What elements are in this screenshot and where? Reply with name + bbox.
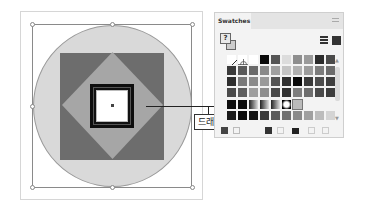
- folder-icon[interactable]: [292, 128, 299, 134]
- swatch-registration[interactable]: [237, 54, 248, 65]
- swatch-color[interactable]: [292, 110, 303, 121]
- swatch-color[interactable]: [270, 76, 281, 87]
- swatch-color[interactable]: [303, 76, 314, 87]
- swatch-color[interactable]: [226, 99, 237, 110]
- swatch-color[interactable]: [314, 76, 325, 87]
- swatch-radial-gradient[interactable]: [281, 99, 292, 110]
- swatch-color[interactable]: [259, 87, 270, 98]
- swatch-color[interactable]: [226, 110, 237, 121]
- swatch-color[interactable]: [226, 87, 237, 98]
- grid-view-icon[interactable]: [332, 36, 341, 45]
- swatch-pattern[interactable]: [292, 99, 303, 110]
- swatch-color[interactable]: [314, 110, 325, 121]
- swatch-color[interactable]: [281, 54, 292, 65]
- swatch-color[interactable]: [259, 65, 270, 76]
- swatch-options-icon[interactable]: [265, 127, 272, 134]
- swatch-color[interactable]: [303, 110, 314, 121]
- swatch-color[interactable]: [292, 87, 303, 98]
- swatch-gradient[interactable]: [259, 99, 270, 110]
- swatch-color[interactable]: [270, 87, 281, 98]
- swatch-color[interactable]: [314, 54, 325, 65]
- swatch-color[interactable]: [259, 76, 270, 87]
- delete-icon[interactable]: [322, 127, 329, 134]
- swatch-color[interactable]: [270, 54, 281, 65]
- swatch-color[interactable]: [314, 65, 325, 76]
- show-kinds-icon[interactable]: [233, 127, 240, 134]
- handle-top-center[interactable]: [110, 22, 115, 27]
- swatch-color[interactable]: [292, 54, 303, 65]
- swatch-color[interactable]: [248, 54, 259, 65]
- handle-middle-left[interactable]: [30, 104, 35, 109]
- handle-top-left[interactable]: [30, 22, 35, 27]
- swatch-gradient[interactable]: [248, 99, 259, 110]
- scroll-up-icon[interactable]: ▲: [335, 57, 339, 63]
- swatch-color[interactable]: [292, 65, 303, 76]
- swatch-color[interactable]: [292, 76, 303, 87]
- swatch-color[interactable]: [281, 110, 292, 121]
- swatch-color[interactable]: [226, 76, 237, 87]
- swatch-color[interactable]: [248, 76, 259, 87]
- new-swatch-icon[interactable]: [308, 127, 315, 134]
- panel-menu-icon[interactable]: [332, 18, 339, 24]
- swatch-color[interactable]: [303, 65, 314, 76]
- swatch-color[interactable]: [248, 65, 259, 76]
- swatch-color[interactable]: [314, 87, 325, 98]
- swatch-color[interactable]: [248, 110, 259, 121]
- swatches-panel: Swatches ? ▲ ▼: [214, 12, 344, 138]
- scrollbar-thumb[interactable]: [335, 67, 340, 101]
- swatch-color[interactable]: [270, 65, 281, 76]
- fill-stroke-indicator[interactable]: ?: [220, 33, 238, 51]
- list-view-icon[interactable]: [320, 36, 328, 44]
- swatch-libraries-icon[interactable]: [221, 127, 228, 134]
- swatch-color[interactable]: [303, 54, 314, 65]
- tab-swatches[interactable]: Swatches: [215, 13, 251, 29]
- swatch-color[interactable]: [237, 99, 248, 110]
- swatch-color[interactable]: [303, 87, 314, 98]
- swatch-none[interactable]: [226, 54, 237, 65]
- drag-label-connector: [208, 106, 209, 114]
- handle-bottom-left[interactable]: [30, 185, 35, 190]
- swatch-color[interactable]: [259, 110, 270, 121]
- swatch-color[interactable]: [237, 65, 248, 76]
- swatch-color[interactable]: [281, 76, 292, 87]
- swatch-color[interactable]: [237, 76, 248, 87]
- swatch-gradient[interactable]: [270, 99, 281, 110]
- handle-top-right[interactable]: [190, 22, 195, 27]
- swatch-color[interactable]: [248, 87, 259, 98]
- swatch-color[interactable]: [259, 54, 270, 65]
- swatch-color[interactable]: [281, 65, 292, 76]
- swatch-color[interactable]: [270, 110, 281, 121]
- swatch-color[interactable]: [237, 87, 248, 98]
- new-color-group-icon[interactable]: [277, 127, 284, 134]
- swatch-color[interactable]: [226, 65, 237, 76]
- handle-bottom-right[interactable]: [190, 185, 195, 190]
- panel-bottom-toolbar: [215, 125, 343, 137]
- swatch-color[interactable]: [281, 87, 292, 98]
- handle-bottom-center[interactable]: [110, 185, 115, 190]
- scroll-down-icon[interactable]: ▼: [335, 115, 339, 121]
- fill-swatch-icon[interactable]: ?: [220, 33, 231, 44]
- swatch-color[interactable]: [237, 110, 248, 121]
